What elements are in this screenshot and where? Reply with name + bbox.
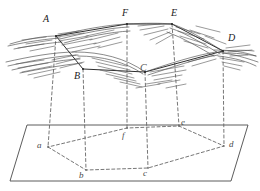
ground-plane-outline [10, 125, 248, 181]
label-point-b: b [79, 171, 84, 180]
projection-line-A-a [48, 36, 56, 147]
label-point-d: d [229, 140, 234, 149]
label-point-C: C [140, 63, 147, 73]
label-point-A: A [43, 14, 49, 24]
label-point-e: e [181, 118, 185, 127]
lower-vertex-marks [47, 125, 225, 171]
label-point-F: F [122, 8, 128, 18]
label-point-a: a [37, 141, 42, 150]
diagram-canvas: A B C D E F a b c d e f [0, 0, 260, 191]
upper-sheet-contours [8, 23, 256, 56]
projection-line-B-b [83, 69, 86, 170]
projection-line-D-d [223, 51, 224, 146]
label-point-c: c [143, 169, 147, 178]
figure-svg [0, 0, 260, 191]
label-point-B: B [74, 71, 80, 81]
projection-line-E-e [172, 24, 179, 126]
label-point-D: D [228, 33, 235, 43]
label-point-f: f [122, 131, 125, 140]
projected-polygon [48, 126, 224, 170]
label-point-E: E [171, 8, 177, 18]
projection-lines [48, 24, 224, 170]
